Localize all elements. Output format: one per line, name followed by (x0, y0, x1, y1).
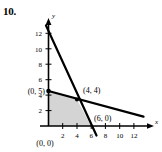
y-tick-label-6: 6 (39, 76, 43, 84)
label-four-four: (4, 4) (83, 86, 101, 95)
vertex-dot-zero-five (46, 89, 51, 94)
y-tick-label-12: 12 (35, 30, 43, 38)
y-tick-label-10: 10 (35, 46, 43, 54)
coordinate-plot: 12 10 8 6 4 2 2 4 6 8 10 12 y x (0, 5) (… (0, 0, 162, 152)
x-axis-label: x (154, 118, 159, 126)
y-axis-arrow (46, 18, 52, 25)
vertex-dot-four-four (75, 97, 79, 101)
x-axis-arrow (147, 123, 154, 129)
label-six-zero: (6, 0) (94, 114, 112, 123)
label-zero-five: (0, 5) (28, 87, 46, 96)
label-origin: (0, 0) (36, 139, 54, 148)
y-tick-label-8: 8 (39, 61, 43, 69)
y-axis-label: y (51, 12, 56, 20)
x-tick-label-6: 6 (89, 132, 93, 140)
figure-container: 10. 12 10 8 6 4 2 2 4 6 8 (0, 0, 162, 152)
x-tick-label-4: 4 (75, 132, 79, 140)
x-tick-label-2: 2 (61, 132, 65, 140)
x-tick-label-10: 10 (116, 132, 124, 140)
x-tick-label-12: 12 (130, 132, 138, 140)
x-tick-label-8: 8 (104, 132, 108, 140)
y-tick-label-2: 2 (39, 107, 43, 115)
